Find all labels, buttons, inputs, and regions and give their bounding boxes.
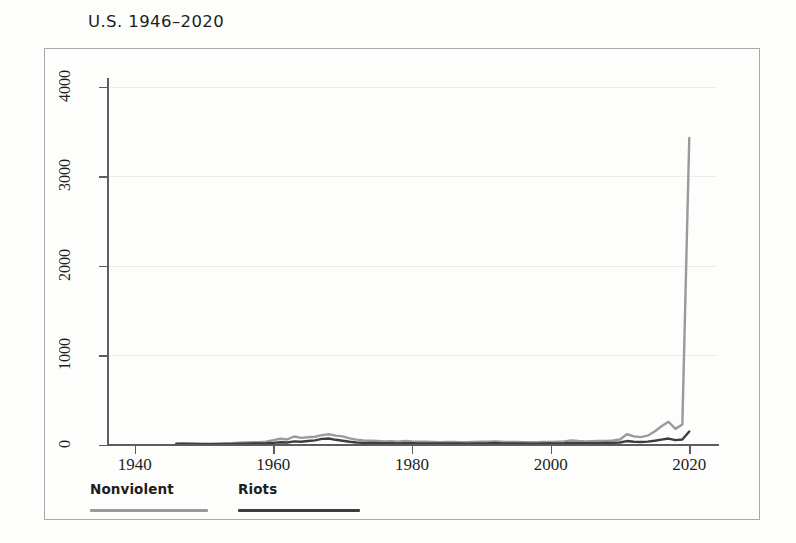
- y-axis-tick-label: 0: [56, 416, 74, 472]
- y-axis-tick-label: 1000: [56, 326, 74, 382]
- legend-item-label: Riots: [238, 481, 360, 497]
- x-axis-tick-label: 1940: [95, 455, 175, 475]
- x-axis-tick: [551, 446, 552, 454]
- legend-item-swatch: [238, 509, 360, 512]
- x-axis-tick: [273, 446, 274, 454]
- y-axis-tick: [99, 176, 107, 177]
- y-axis-tick-label: 2000: [56, 237, 74, 293]
- y-axis-tick: [99, 87, 107, 88]
- legend-item-swatch: [90, 509, 208, 512]
- x-axis-tick-label: 1980: [372, 455, 452, 475]
- y-axis-spine: [107, 78, 109, 445]
- legend-item-riots[interactable]: Riots: [238, 481, 360, 512]
- y-axis-tick-label: 3000: [56, 147, 74, 203]
- y-axis-tick: [99, 266, 107, 267]
- x-axis-tick-label: 2000: [511, 455, 591, 475]
- series-line-nonviolent: [176, 138, 689, 444]
- series-lines: [107, 60, 717, 445]
- x-axis-tick: [412, 446, 413, 454]
- chart-figure: U.S. 1946–2020 01000200030004000 1940196…: [0, 0, 796, 543]
- x-axis-tick-label: 2020: [649, 455, 729, 475]
- legend-item-label: Nonviolent: [90, 481, 208, 497]
- legend-item-nonviolent[interactable]: Nonviolent: [90, 481, 208, 512]
- y-axis-tick: [99, 355, 107, 356]
- y-axis-tick-label: 4000: [56, 58, 74, 114]
- x-axis-tick: [135, 446, 136, 454]
- x-axis-tick-label: 1960: [233, 455, 313, 475]
- y-axis-tick: [99, 445, 107, 446]
- page-title: U.S. 1946–2020: [88, 12, 224, 31]
- plot-area: [107, 60, 717, 445]
- x-axis-tick: [689, 446, 690, 454]
